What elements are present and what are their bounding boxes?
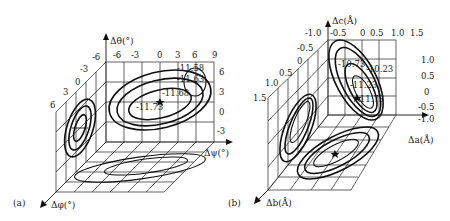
- arrow-right-icon: [226, 139, 233, 145]
- diag-tick: 1.5: [253, 93, 267, 103]
- axis-label-b: Δb(Å): [266, 197, 292, 208]
- axis-label-a: Δa(Å): [408, 134, 433, 145]
- right-tick: 1.0: [421, 55, 435, 65]
- axis-label-theta: Δθ(°): [110, 36, 133, 46]
- axis-label-c: Δc(Å): [332, 15, 357, 26]
- contour-label: -11.68: [162, 88, 189, 98]
- diag-tick: -6: [92, 52, 100, 62]
- arrow-up-icon: [325, 20, 331, 27]
- arrow-down-left-icon: [40, 200, 47, 208]
- diag-tick: 0: [75, 77, 80, 87]
- panel-tag: (b): [228, 198, 241, 208]
- right-tick: 0: [219, 107, 224, 117]
- star-icon: [331, 150, 340, 158]
- diag-tick: 3: [63, 87, 68, 97]
- diag-tick: 6: [50, 100, 55, 110]
- axis-label-phi: Δφ(°): [51, 200, 75, 210]
- right-tick: 3: [219, 87, 224, 97]
- panel-b: -0.5 0 0.5 1.0 1.5 1.0 0.5 0 -0.5 -1.0 -…: [228, 15, 435, 208]
- panel-a: -6 -3 0 3 6 9 6 3 0 -3 -6 -3 0 3 6 -11.5…: [13, 33, 233, 210]
- diag-tick: -3: [80, 64, 88, 74]
- top-tick: -3: [131, 50, 139, 60]
- axis-label-psi: Δψ(°): [204, 148, 229, 158]
- right-tick: 0: [424, 87, 429, 97]
- right-tick: 0.5: [421, 71, 435, 81]
- contour-label: -11.63: [177, 74, 204, 84]
- diag-tick: -0.5: [297, 43, 313, 53]
- arrow-down-left-icon: [254, 196, 261, 204]
- contour-label: -11.58: [177, 63, 204, 73]
- figure: -6 -3 0 3 6 9 6 3 0 -3 -6 -3 0 3 6 -11.5…: [0, 0, 450, 221]
- side-wall-grid: [56, 62, 106, 192]
- top-tick: 1.0: [391, 28, 405, 38]
- contour-label: -11.23: [350, 80, 377, 90]
- contour-label: -11.73: [136, 102, 163, 112]
- arrow-up-icon: [103, 33, 109, 40]
- top-tick: 0: [360, 28, 365, 38]
- top-tick: 3: [175, 50, 180, 60]
- top-tick: 0: [157, 50, 162, 60]
- diag-tick: -1.0: [305, 28, 321, 38]
- right-tick: -3: [217, 126, 225, 136]
- right-tick: -0.5: [418, 102, 434, 112]
- diag-tick: 1.0: [265, 78, 279, 88]
- floor-grid: [56, 142, 214, 192]
- top-tick: 6: [192, 50, 197, 60]
- contour-label: -11.73: [357, 94, 384, 104]
- right-tick: -1.0: [418, 114, 434, 124]
- top-tick: 9: [212, 50, 217, 60]
- top-tick: -6: [113, 50, 121, 60]
- panel-tag: (a): [13, 198, 25, 208]
- top-tick: 0.5: [370, 28, 384, 38]
- diag-tick: 0: [297, 56, 302, 66]
- contour-label: -10.73: [338, 59, 365, 69]
- diag-tick: 0.5: [279, 68, 293, 78]
- right-tick: 6: [219, 67, 224, 77]
- top-tick: 1.5: [410, 28, 424, 38]
- contour-label: -10.23: [366, 64, 393, 74]
- top-tick: -0.5: [330, 28, 346, 38]
- side-wall-contours: [58, 95, 101, 160]
